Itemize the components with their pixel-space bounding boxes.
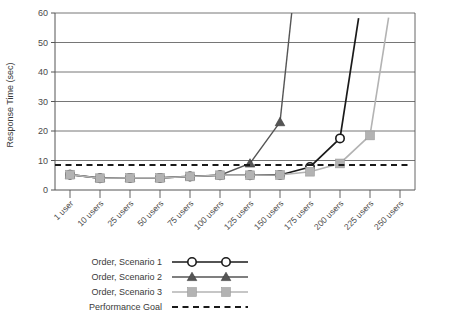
data-point-marker [336,159,345,168]
x-axis-tick-label: 100 users [192,198,225,231]
y-axis-tick-label: 40 [38,67,48,77]
legend-label: Order, Scenario 1 [91,257,162,267]
y-axis-tick-label: 50 [38,38,48,48]
y-axis-tick-label: 60 [38,8,48,18]
data-point-marker [126,174,135,183]
data-point-marker [222,288,231,297]
x-axis-tick-label: 50 users [135,198,165,228]
series-lines-layer [55,0,409,183]
plot-series [55,0,409,183]
chart-legend: Order, Scenario 1Order, Scenario 2Order,… [89,257,248,312]
grid-lines [55,13,415,161]
data-point-marker [66,170,75,179]
y-axis-tick-label: 10 [38,156,48,166]
data-point-marker [276,171,285,180]
y-axis-tick-label: 0 [43,185,48,195]
x-axis-tick-label: 150 users [252,198,285,231]
y-axis-tick-label: 20 [38,126,48,136]
x-axis-tick-label: 175 users [282,198,315,231]
series-offscale-line [280,0,299,122]
response-time-chart: 0102030405060 1 user10 users25 users50 u… [0,0,450,320]
data-point-marker [156,174,165,183]
x-axis: 1 user10 users25 users50 users75 users10… [52,13,415,232]
data-point-marker [306,167,315,176]
data-point-marker [96,174,105,183]
data-point-marker [366,131,375,140]
x-axis-tick-label: 125 users [222,198,255,231]
x-axis-tick-label: 250 users [372,198,405,231]
series-offscale-line [340,18,359,138]
series-offscale-line [370,18,389,136]
y-axis-title-group: Response Time (sec) [5,62,15,147]
x-axis-tick-label: 25 users [105,198,135,228]
data-point-marker [188,288,197,297]
legend-label: Performance Goal [89,302,162,312]
data-point-marker [275,117,285,125]
y-axis-tick-label: 30 [38,97,48,107]
y-axis: 0102030405060 [38,8,55,195]
data-point-marker [188,258,196,266]
legend-label: Order, Scenario 3 [91,287,162,297]
data-point-marker [186,172,195,181]
data-point-marker [216,171,225,180]
data-point-marker [336,134,344,142]
x-axis-tick-label: 10 users [75,198,105,228]
x-axis-tick-label: 200 users [312,198,345,231]
data-point-marker [246,171,255,180]
data-point-marker [222,258,230,266]
chart-canvas: 0102030405060 1 user10 users25 users50 u… [0,0,450,320]
legend-label: Order, Scenario 2 [91,272,162,282]
x-axis-tick-label: 225 users [342,198,375,231]
x-axis-tick-label: 75 users [165,198,195,228]
x-axis-tick-label: 1 user [52,198,76,222]
y-axis-title: Response Time (sec) [5,62,15,147]
